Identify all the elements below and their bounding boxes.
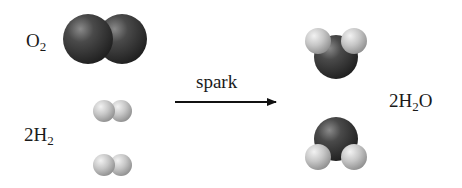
o2-molecule	[63, 14, 147, 64]
h2-molecule	[93, 100, 132, 122]
hydrogen-atom	[93, 154, 115, 176]
hydrogen-atom	[93, 100, 115, 122]
h2o-molecule	[305, 117, 367, 170]
h2o-molecule	[305, 28, 367, 79]
hydrogen-atom	[305, 144, 331, 170]
oxygen-atom	[63, 14, 113, 64]
h2-molecule	[93, 154, 132, 176]
hydrogen-atom	[341, 144, 367, 170]
hydrogen-atom	[305, 28, 331, 54]
reaction-diagram	[0, 0, 462, 188]
hydrogen-atom	[341, 28, 367, 54]
